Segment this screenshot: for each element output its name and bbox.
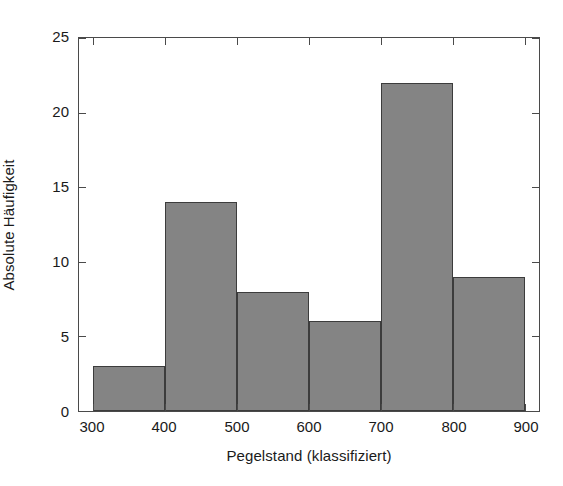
y-tick-label-15: 15 [27, 178, 69, 195]
y-tick-label-25: 25 [27, 28, 69, 45]
x-tick-label-600: 600 [279, 418, 339, 435]
x-axis-label: Pegelstand (klassifiziert) [78, 447, 540, 464]
y-tick-10 [79, 262, 86, 263]
x-tick-label-300: 300 [62, 418, 122, 435]
y-tick-5 [79, 336, 86, 337]
bar-700-800[interactable] [381, 83, 453, 411]
y-tick-right-5 [532, 336, 539, 337]
bar-800-900[interactable] [453, 277, 525, 411]
y-tick-label-20: 20 [27, 103, 69, 120]
y-tick-right-15 [532, 187, 539, 188]
x-tick-label-400: 400 [134, 418, 194, 435]
y-tick-right-10 [532, 262, 539, 263]
x-tick-top-500 [237, 38, 238, 45]
x-tick-600 [309, 404, 310, 411]
bar-500-600[interactable] [237, 292, 309, 411]
plot-area [78, 37, 540, 412]
x-tick-top-300 [93, 38, 94, 45]
x-tick-300 [93, 404, 94, 411]
y-tick-label-5: 5 [27, 328, 69, 345]
x-tick-700 [381, 404, 382, 411]
x-tick-label-500: 500 [207, 418, 267, 435]
x-tick-top-800 [453, 38, 454, 45]
x-tick-label-800: 800 [424, 418, 484, 435]
y-tick-right-25 [532, 38, 539, 39]
bar-400-500[interactable] [165, 202, 237, 411]
x-tick-400 [165, 404, 166, 411]
x-tick-label-700: 700 [351, 418, 411, 435]
y-tick-25 [79, 38, 86, 39]
histogram-figure: Absolute Häufigkeit 0 5 10 15 [0, 0, 563, 486]
x-tick-500 [237, 404, 238, 411]
x-tick-top-900 [525, 38, 526, 45]
x-tick-top-600 [309, 38, 310, 45]
y-tick-right-20 [532, 113, 539, 114]
bar-series [79, 38, 539, 411]
x-tick-top-400 [165, 38, 166, 45]
x-tick-800 [453, 404, 454, 411]
y-tick-label-10: 10 [27, 253, 69, 270]
bar-300-400[interactable] [93, 366, 165, 411]
y-tick-15 [79, 187, 86, 188]
y-tick-0 [79, 411, 86, 412]
x-tick-top-700 [381, 38, 382, 45]
y-axis-label: Absolute Häufigkeit [0, 30, 22, 420]
x-tick-900 [525, 404, 526, 411]
y-tick-right-0 [532, 411, 539, 412]
bar-600-700[interactable] [309, 321, 381, 411]
y-tick-20 [79, 113, 86, 114]
x-tick-label-900: 900 [496, 418, 556, 435]
